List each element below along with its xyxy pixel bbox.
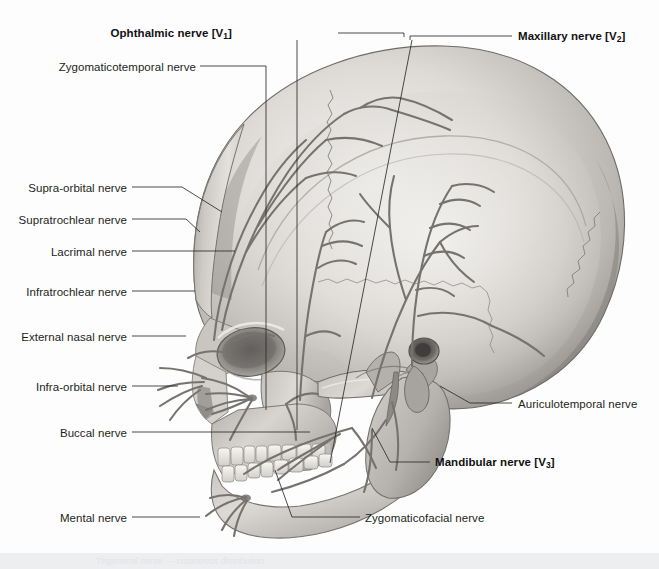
label-mental-nerve: Mental nerve [60, 512, 127, 524]
label-text: Mental nerve [60, 512, 127, 524]
label-text: Buccal nerve [60, 427, 127, 439]
anatomical-figure [0, 0, 659, 569]
label-suffix: ] [228, 27, 232, 39]
label-text: Ophthalmic nerve [V [111, 27, 224, 39]
label-auriculotemporal-nerve: Auriculotemporal nerve [518, 398, 637, 410]
label-infratrochlear-nerve: Infratrochlear nerve [26, 286, 127, 298]
label-subscript: 3 [546, 460, 551, 470]
label-ophthalmic-nerve: Ophthalmic nerve [V1] [111, 27, 232, 40]
label-zygomaticotemporal-nerve: Zygomaticotemporal nerve [59, 61, 196, 73]
label-text: Infra-orbital nerve [36, 381, 127, 393]
label-subscript: 1 [223, 31, 228, 41]
skull-illustration [0, 0, 659, 569]
label-text: Zygomaticofacial nerve [365, 512, 484, 524]
label-text: Zygomaticotemporal nerve [59, 61, 196, 73]
label-text: Auriculotemporal nerve [518, 398, 637, 410]
label-subscript: 2 [617, 34, 622, 44]
label-zygomaticofacial-nerve: Zygomaticofacial nerve [365, 512, 484, 524]
label-suffix: ] [551, 456, 555, 468]
label-text: Mandibular nerve [V [435, 456, 546, 468]
label-text: Supratrochlear nerve [19, 214, 127, 226]
label-suffix: ] [621, 30, 625, 42]
label-infra-orbital-nerve: Infra-orbital nerve [36, 381, 127, 393]
label-external-nasal-nerve: External nasal nerve [21, 331, 127, 343]
label-mandibular-nerve: Mandibular nerve [V3] [435, 456, 555, 469]
label-maxillary-nerve: Maxillary nerve [V2] [518, 30, 625, 43]
label-text: External nasal nerve [21, 331, 127, 343]
label-text: Infratrochlear nerve [26, 286, 127, 298]
label-text: Lacrimal nerve [51, 246, 127, 258]
label-supratrochlear-nerve: Supratrochlear nerve [19, 214, 127, 226]
label-text: Supra-orbital nerve [28, 182, 127, 194]
label-text: Maxillary nerve [V [518, 30, 617, 42]
caption-text: Trigeminal nerve — cutaneous distributio… [96, 556, 264, 566]
label-supra-orbital-nerve: Supra-orbital nerve [28, 182, 127, 194]
label-lacrimal-nerve: Lacrimal nerve [51, 246, 127, 258]
label-buccal-nerve: Buccal nerve [60, 427, 127, 439]
